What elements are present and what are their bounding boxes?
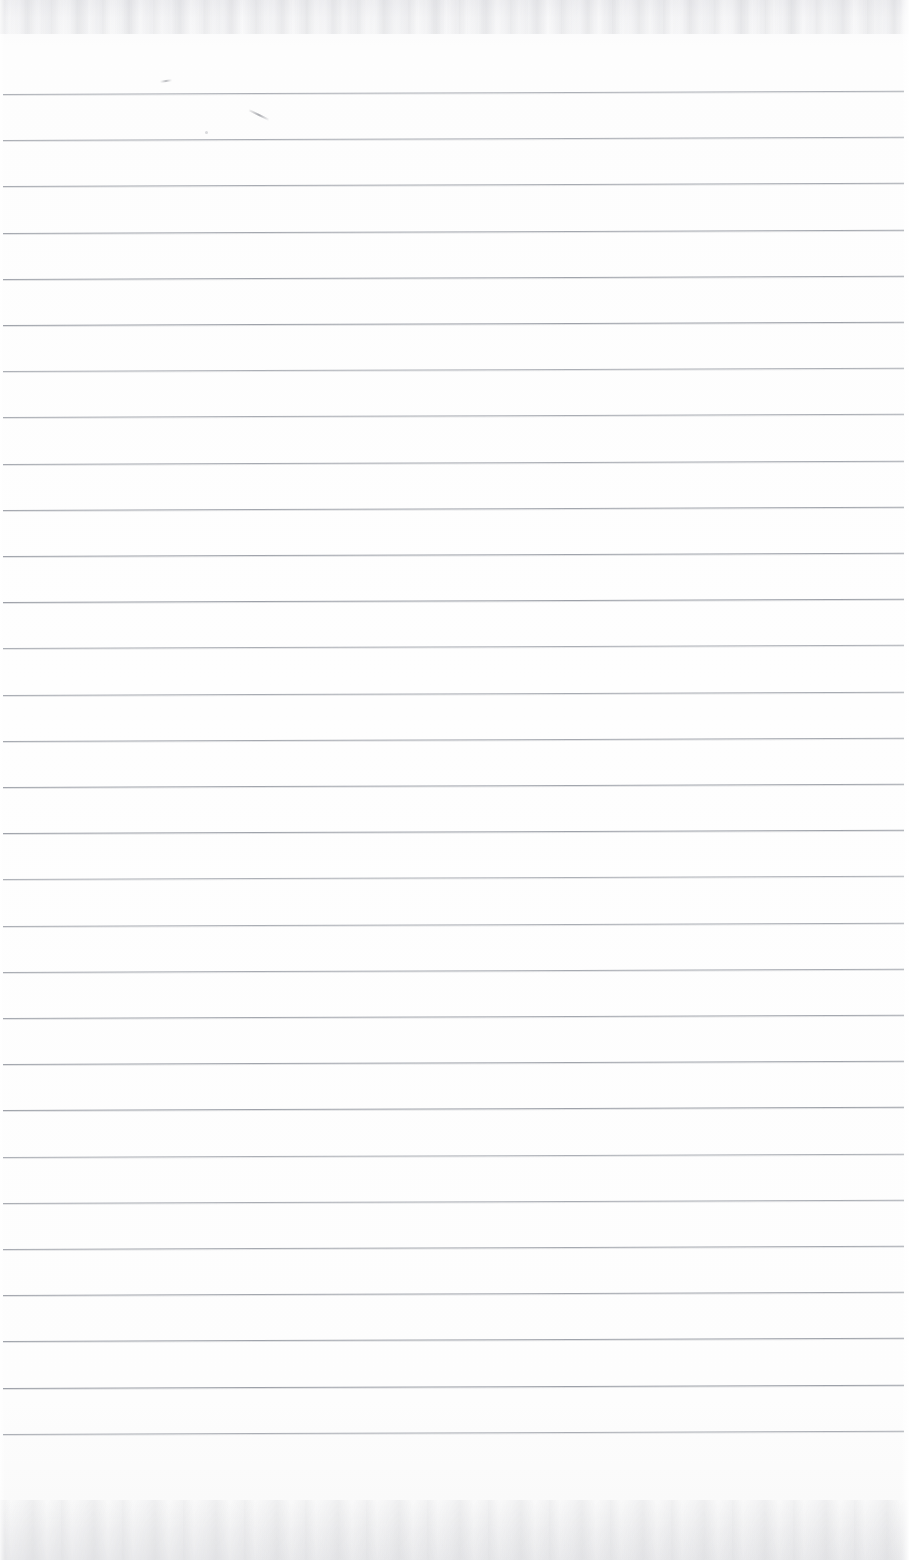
rule-line — [3, 1107, 904, 1111]
rule-line — [3, 553, 904, 557]
rule-line — [3, 738, 904, 742]
rule-line — [3, 414, 904, 418]
rule-line — [3, 1153, 904, 1157]
rule-line — [3, 1338, 904, 1342]
rule-line — [3, 1246, 904, 1250]
rule-line — [3, 922, 904, 926]
scanned-page — [0, 0, 909, 1560]
rule-line — [3, 599, 904, 603]
rule-line — [3, 830, 904, 834]
rule-line — [3, 1200, 904, 1204]
rule-line — [3, 507, 904, 511]
rule-line — [3, 276, 904, 280]
rule-line — [3, 322, 904, 326]
rule-line — [3, 183, 904, 187]
rule-line — [3, 229, 904, 233]
rule-line — [3, 969, 904, 973]
rule-line — [3, 784, 904, 788]
pencil-speck — [205, 131, 208, 134]
rule-line — [3, 645, 904, 649]
ruled-lines-group — [0, 0, 909, 1560]
rule-line — [3, 1292, 904, 1296]
rule-line — [3, 876, 904, 880]
rule-line — [3, 691, 904, 695]
rule-line — [3, 137, 904, 141]
rule-line — [3, 368, 904, 372]
rule-line — [3, 460, 904, 464]
rule-line — [3, 1015, 904, 1019]
rule-line — [3, 1384, 904, 1388]
rule-line — [3, 1431, 904, 1435]
rule-line — [3, 91, 904, 95]
rule-line — [3, 1061, 904, 1065]
